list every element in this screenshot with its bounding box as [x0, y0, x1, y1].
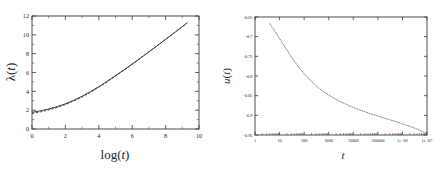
chart-panel-left: 0246810 024681012 log(t) λ(t) [0, 0, 220, 169]
x-tick-label: 10 [277, 138, 281, 143]
left-y-tick-labels: 024681012 [23, 12, 29, 132]
y-tick-label: -0.95 [244, 133, 253, 138]
x-tick-label: 10 [196, 132, 202, 139]
y-tick-label: 8 [26, 50, 29, 57]
right-x-axis-label: t [341, 149, 345, 161]
x-tick-label: 1000 [324, 138, 333, 143]
figure-container: 0246810 024681012 log(t) λ(t) 1101001000… [0, 0, 441, 169]
x-tick-label: 10000 [348, 138, 359, 143]
left-x-axis-label: log(t) [101, 147, 130, 162]
left-series-dashed [32, 23, 187, 114]
y-tick-label: -0.7 [246, 34, 254, 39]
y-tick-label: -0.65 [244, 15, 253, 20]
right-x-tick-labels: 1101001000100001000001e+061e+07 [254, 138, 433, 143]
x-tick-label: 1e+06 [397, 138, 409, 143]
y-tick-label: 10 [23, 31, 29, 38]
right-series-dotted [270, 24, 427, 134]
right-axis-ticks [255, 17, 427, 135]
left-y-axis-label: λ(t) [3, 63, 18, 82]
chart-panel-right: 1101001000100001000001e+061e+07 -0.65-0.… [216, 0, 441, 169]
y-tick-label: 0 [26, 125, 29, 132]
x-tick-label: 1 [254, 138, 256, 143]
x-tick-label: 1e+07 [422, 138, 434, 143]
x-tick-label: 8 [164, 132, 167, 139]
left-x-tick-labels: 0246810 [30, 132, 202, 139]
x-tick-label: 0 [30, 132, 33, 139]
x-tick-label: 2 [64, 132, 67, 139]
y-tick-label: -0.75 [244, 54, 253, 59]
x-tick-label: 100 [301, 138, 307, 143]
y-tick-label: 4 [26, 88, 29, 95]
right-y-tick-labels: -0.65-0.7-0.75-0.8-0.85-0.9-0.95 [244, 15, 254, 138]
y-tick-label: -0.9 [246, 113, 253, 118]
y-tick-label: -0.8 [246, 74, 253, 79]
left-plot-svg: 0246810 024681012 log(t) λ(t) [0, 0, 220, 169]
y-tick-label: 2 [26, 106, 29, 113]
y-tick-label: -0.85 [244, 93, 253, 98]
left-series-solid [32, 23, 187, 112]
right-plot-frame [255, 17, 427, 135]
y-tick-label: 6 [26, 69, 29, 76]
x-tick-label: 4 [97, 132, 100, 139]
right-plot-svg: 1101001000100001000001e+061e+07 -0.65-0.… [216, 0, 441, 169]
y-tick-label: 12 [23, 12, 29, 19]
x-tick-label: 100000 [371, 138, 384, 143]
right-y-axis-label: u(t) [220, 68, 233, 84]
x-tick-label: 6 [131, 132, 134, 139]
